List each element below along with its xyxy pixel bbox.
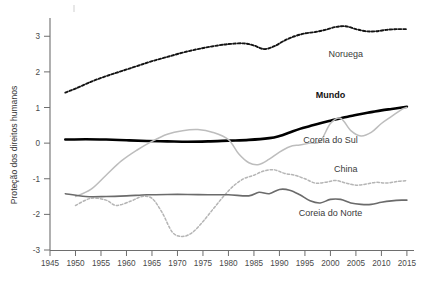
x-tick-label: 1990 bbox=[270, 259, 289, 268]
series-label-china: China bbox=[334, 164, 358, 174]
y-tick-label: 1 bbox=[35, 104, 40, 113]
x-tick-label: 2005 bbox=[347, 259, 366, 268]
x-tick-label: 1975 bbox=[194, 259, 213, 268]
series-label-coreia-do-norte: Coreia do Norte bbox=[299, 208, 363, 218]
line-chart-plot: 3210-1-2-3194519501955196019651970197519… bbox=[0, 0, 432, 281]
x-tick-label: 1995 bbox=[296, 259, 315, 268]
x-tick-label: 1945 bbox=[41, 259, 60, 268]
series-line-noruega bbox=[65, 26, 407, 92]
y-tick-label: 3 bbox=[35, 32, 40, 41]
x-tick-label: 1960 bbox=[117, 259, 136, 268]
x-tick-label: 1965 bbox=[143, 259, 162, 268]
series-line-china bbox=[75, 170, 406, 237]
x-tick-label: 1980 bbox=[219, 259, 238, 268]
y-tick-label: -1 bbox=[33, 175, 41, 184]
x-tick-label: 2000 bbox=[321, 259, 340, 268]
x-tick-label: 1950 bbox=[66, 259, 85, 268]
x-tick-label: 1985 bbox=[245, 259, 264, 268]
x-tick-label: 1970 bbox=[168, 259, 187, 268]
x-tick-label: 2010 bbox=[372, 259, 391, 268]
y-tick-label: -3 bbox=[33, 246, 41, 255]
series-line-coreia-do-norte bbox=[65, 189, 407, 204]
y-tick-label: 0 bbox=[35, 139, 40, 148]
svg-text:Proteção dos direitos humanos: Proteção dos direitos humanos bbox=[9, 86, 19, 204]
chart-container: 3210-1-2-3194519501955196019651970197519… bbox=[0, 0, 432, 281]
x-tick-label: 1955 bbox=[92, 259, 111, 268]
series-label-noruega: Noruega bbox=[328, 49, 363, 59]
series-line-coreia-do-sul bbox=[75, 108, 406, 197]
y-tick-label: 2 bbox=[35, 68, 40, 77]
y-axis-title: Proteção dos direitos humanos bbox=[9, 86, 19, 204]
series-label-mundo: Mundo bbox=[316, 90, 346, 100]
series-label-coreia-do-sul: Coreia do Sul bbox=[303, 135, 358, 145]
x-tick-label: 2015 bbox=[398, 259, 417, 268]
y-tick-label: -2 bbox=[33, 210, 41, 219]
